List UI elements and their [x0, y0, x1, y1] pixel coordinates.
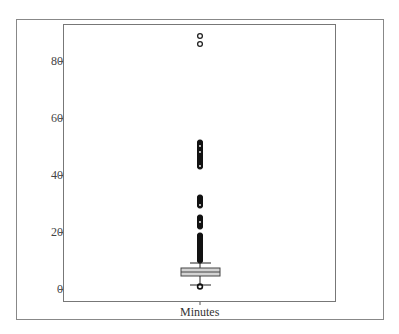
boxplot — [0, 0, 399, 334]
outliers-extreme — [198, 34, 203, 47]
outlier-cluster-high — [198, 140, 203, 263]
outlier-low — [198, 284, 203, 289]
x-category-label: Minutes — [180, 305, 219, 320]
